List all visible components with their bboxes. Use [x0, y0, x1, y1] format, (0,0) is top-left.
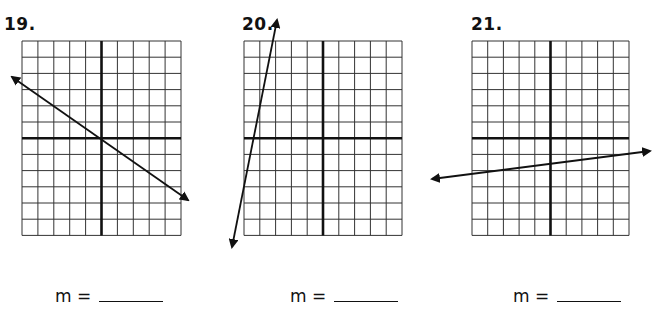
- slope-answer-19: m =: [55, 286, 163, 306]
- problem-number-21: 21.: [471, 14, 503, 34]
- coordinate-grid-21: [432, 41, 650, 235]
- slope-answer-21: m =: [513, 286, 621, 306]
- graphs-canvas: [0, 0, 661, 317]
- problem-number-19: 19.: [4, 14, 36, 34]
- slope-label: m =: [513, 286, 549, 306]
- coordinate-grid-19: [12, 41, 188, 235]
- slope-answer-blank[interactable]: [99, 287, 163, 302]
- graphed-line-arrow: [432, 151, 650, 179]
- coordinate-grid-20: [232, 20, 402, 247]
- graphed-line-arrow: [232, 20, 277, 247]
- slope-answer-20: m =: [290, 286, 398, 306]
- slope-label: m =: [290, 286, 326, 306]
- slope-answer-blank[interactable]: [334, 287, 398, 302]
- problem-number-20: 20.: [242, 14, 274, 34]
- slope-label: m =: [55, 286, 91, 306]
- slope-answer-blank[interactable]: [557, 287, 621, 302]
